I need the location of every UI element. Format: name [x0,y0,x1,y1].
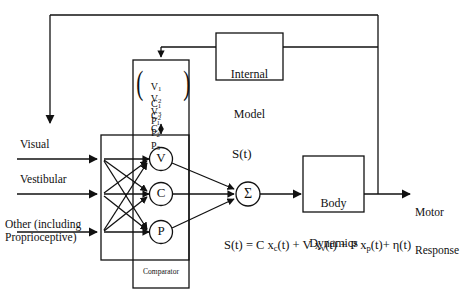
equation-noise: η(t) [393,238,411,252]
equation-term3: P xp(t) [350,238,382,252]
input-label-other: Other (includingProprioceptive) [5,218,81,244]
body-dynamics-label: Body Dynamics [303,170,364,278]
equation-equals: = [246,238,253,252]
signal-label-st: S(t) [232,147,252,162]
node-label-v: V [152,151,170,166]
crossbar-other-to-c [104,197,147,231]
diagram-canvas: ( ) V1 V2 V3 C1 C2 C3 P1 P2 P3 Visual Ve… [0,0,473,297]
motor-response-line1: Motor [415,206,459,219]
matrix-close-paren: ) [183,66,190,100]
summing-junction-label: Σ [239,186,257,202]
matrix-cell-p1: P1 [151,115,160,126]
motor-response-label: Motor Response [415,180,459,283]
motor-response-line2: Response [415,244,459,257]
equation-plus1: + [293,238,300,252]
node-label-c: C [152,186,170,201]
equation-term1: C xc(t) [256,238,289,252]
equation-lhs: S(t) [224,238,243,252]
comparator-label: Comparator [133,268,189,276]
equation-plus2: + [340,238,347,252]
equation-st: S(t) = C xc(t) + V xv(t) + P xp(t)+ η(t) [224,238,411,253]
body-dynamics-label-line1: Body [303,197,364,210]
node-p-to-sum [172,199,234,228]
input-label-vestibular: Vestibular [20,173,67,186]
equation-plus3: + [383,238,390,252]
internal-model-label-line2: Model [216,108,283,121]
node-v-to-sum [172,163,234,189]
internal-model-label-line1: Internal [216,68,283,81]
matrix-cell-p2: P2 [151,127,160,138]
crossbar-vestibular-to-p [104,196,147,230]
equation-term2: V xv(t) [302,238,336,252]
node-label-p: P [152,224,170,239]
internal-model-label: Internal Model [216,41,283,149]
input-label-visual: Visual [20,138,49,151]
